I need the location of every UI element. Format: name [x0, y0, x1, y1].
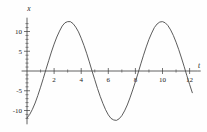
x-tick-label: 2: [52, 76, 56, 84]
x-axis-label: t: [198, 61, 201, 70]
x-tick-label: 4: [79, 76, 83, 84]
y-tick-label: -10: [13, 107, 23, 115]
axes-group: [22, 18, 201, 125]
plot-canvas: 24681012-10-5510 x t: [0, 0, 207, 132]
y-tick-label: -5: [16, 87, 22, 95]
y-tick-label: 5: [19, 48, 23, 56]
tick-labels-group: 24681012-10-5510: [13, 28, 194, 115]
chart-figure: 24681012-10-5510 x t: [0, 0, 207, 132]
y-tick-label: 10: [15, 28, 23, 36]
x-tick-label: 6: [107, 76, 111, 84]
y-axis-label: x: [26, 4, 31, 13]
x-tick-label: 10: [159, 76, 167, 84]
